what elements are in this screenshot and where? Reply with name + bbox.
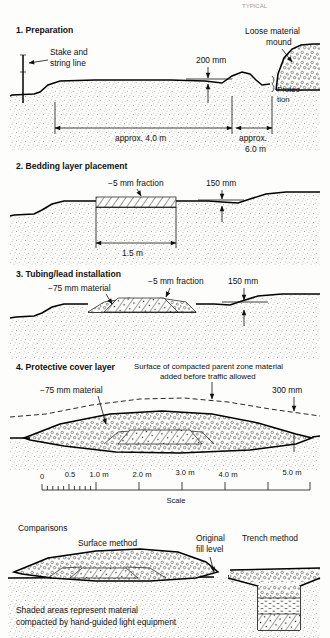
dim-6m-label-line2: 6.0 m: [245, 144, 266, 154]
section-1-heading: 1. Preparation: [16, 25, 73, 35]
section-bedding: 2. Bedding layer placement −5 mm fractio…: [10, 161, 320, 266]
dim-1p5m-label: 1.5 m: [122, 248, 143, 258]
trench-fill-middle: [258, 598, 300, 614]
section-2-heading: 2. Bedding layer placement: [16, 161, 127, 171]
depth-300-label: 300 mm: [272, 385, 302, 395]
page-header-faint: TYPICAL: [242, 3, 268, 9]
protection-label-line2: tion: [277, 95, 290, 104]
trench-fill-upper: [258, 586, 300, 598]
section-4-heading: 4. Protective cover layer: [16, 362, 116, 372]
fraction-5mm-leader-2: [137, 189, 141, 196]
surface-method-label: Surface method: [78, 538, 137, 548]
section-preparation: 1. Preparation Stake and string line Loo…: [10, 25, 320, 154]
stake-label-line1: Stake and: [50, 47, 88, 57]
diagram-page: TYPICAL 1. Preparation Stake and string …: [0, 0, 330, 638]
material-75mm-label-4: −75 mm material: [40, 385, 103, 395]
scale-label-5: 5.0 m: [283, 468, 302, 477]
compacted-surface-label-line2: added before traffic allowed: [160, 372, 256, 381]
original-fill-label-line2: fill level: [196, 544, 224, 554]
compacted-surface-label-line1: Surface of compacted parent zone materia…: [134, 362, 283, 371]
mound-label-line2: mound: [266, 37, 292, 47]
technical-diagram: TYPICAL 1. Preparation Stake and string …: [0, 0, 330, 638]
scale-label-3: 3.0 m: [176, 468, 195, 477]
section-3-heading: 3. Tubing/lead installation: [16, 269, 121, 279]
comparisons-heading: Comparisons: [18, 523, 67, 533]
protection-label-line1: Protec-: [277, 85, 303, 94]
depth-150-label-2: 150 mm: [206, 178, 236, 188]
dim-6m-label-line1: approx.: [239, 133, 267, 143]
scale-bar: 0 0.5 1.0 m 2.0 m 3.0 m 4.0 m 5.0 m Scal…: [40, 468, 310, 505]
fraction-5mm-label-3: −5 mm fraction: [148, 276, 204, 286]
stake-label-line2: string line: [50, 58, 86, 68]
stake-leader: [29, 60, 48, 63]
scale-label-0p5: 0.5: [65, 470, 76, 479]
scale-label-1: 1.0 m: [90, 470, 109, 479]
fraction-5mm-leader-3: [166, 288, 170, 297]
scale-label-4: 4.0 m: [219, 470, 238, 479]
scale-label-0: 0: [40, 472, 44, 481]
original-fill-label-line1: Original: [196, 533, 225, 543]
depth-150-label-3: 150 mm: [228, 276, 258, 286]
comparisons-note-line2: compacted by hand-guided light equipment: [16, 617, 177, 627]
section-cover: 4. Protective cover layer −75 mm materia…: [10, 362, 320, 470]
dim-4m-label: approx. 4.0 m: [115, 133, 166, 143]
section-comparisons: Comparisons Surface method Original fill…: [8, 523, 320, 638]
ground-line-4-right: [312, 436, 320, 437]
trench-method-label: Trench method: [242, 533, 298, 543]
bedding-core-4: [118, 430, 202, 444]
material-75mm-label-3: −75 mm material: [48, 283, 111, 293]
loose-material-mound: [276, 44, 320, 90]
section-tubing: 3. Tubing/lead installation −75 mm mater…: [10, 269, 320, 360]
fraction-5mm-label-2: −5 mm fraction: [108, 178, 164, 188]
scale-caption: Scale: [167, 496, 186, 505]
scale-label-2: 2.0 m: [133, 470, 152, 479]
mound-label-line1: Loose material: [245, 26, 300, 36]
depth-200-label: 200 mm: [196, 55, 226, 65]
trench-fill-lower: [258, 614, 300, 630]
comparisons-note-line1: Shaded areas represent material: [16, 605, 138, 615]
bedding-layer-fill: [96, 197, 176, 207]
